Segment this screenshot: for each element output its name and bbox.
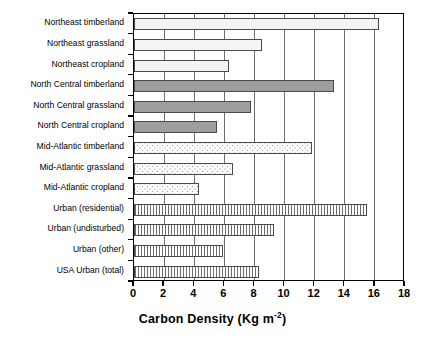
bar (134, 183, 199, 195)
y-axis-tick (128, 280, 133, 281)
gridline (344, 14, 345, 280)
bar (134, 121, 217, 133)
bar (134, 224, 274, 236)
y-axis-tick (128, 33, 133, 34)
category-label: Urban (residential) (0, 204, 124, 213)
x-axis-tick (132, 281, 133, 286)
category-label: Northeast cropland (0, 60, 124, 69)
x-axis-tick (283, 281, 284, 286)
y-axis-tick (128, 54, 133, 55)
x-axis-tick-label: 4 (178, 287, 208, 299)
bar (134, 101, 251, 113)
x-axis-title: Carbon Density (Kg m-2) (0, 310, 425, 326)
x-axis-tick (162, 281, 163, 286)
y-axis-tick (128, 239, 133, 240)
y-axis-tick (128, 12, 133, 13)
bar (134, 18, 379, 30)
bar (134, 80, 334, 92)
x-axis-tick (403, 281, 404, 286)
category-label: Mid-Atlantic timberland (0, 142, 124, 151)
x-axis-tick (193, 281, 194, 286)
x-axis-tick-label: 2 (148, 287, 178, 299)
bar (134, 204, 367, 216)
category-label: Urban (undisturbed) (0, 224, 124, 233)
plot-area (133, 13, 404, 281)
gridline (314, 14, 315, 280)
y-axis-tick (128, 115, 133, 116)
bar (134, 245, 223, 257)
x-axis-tick-label: 0 (118, 287, 148, 299)
bar (134, 142, 312, 154)
x-axis-tick-label: 18 (389, 287, 419, 299)
y-axis-tick (128, 198, 133, 199)
category-axis-labels: Northeast timberlandNortheast grasslandN… (0, 13, 128, 281)
x-axis-tick-label: 12 (299, 287, 329, 299)
x-axis-tick (373, 281, 374, 286)
x-axis-tick-label: 6 (208, 287, 238, 299)
bar (134, 60, 229, 72)
bar (134, 39, 262, 51)
bar-chart: Northeast timberlandNortheast grasslandN… (0, 0, 425, 345)
x-axis-tick-label: 8 (238, 287, 268, 299)
x-axis-title-exponent: -2 (274, 310, 282, 320)
category-label: North Central cropland (0, 121, 124, 130)
category-label: Urban (other) (0, 245, 124, 254)
x-axis-tick-label: 10 (269, 287, 299, 299)
category-label: Mid-Atlantic cropland (0, 183, 124, 192)
x-axis-tick-label: 16 (359, 287, 389, 299)
category-label: Northeast grassland (0, 39, 124, 48)
category-label: USA Urban (total) (0, 266, 124, 275)
x-axis-tick-label: 14 (329, 287, 359, 299)
gridline (374, 14, 375, 280)
category-label: North Central grassland (0, 101, 124, 110)
category-label: North Central timberland (0, 80, 124, 89)
x-axis-tick (253, 281, 254, 286)
x-axis-tick (343, 281, 344, 286)
y-axis-tick (128, 219, 133, 220)
y-axis-tick (128, 157, 133, 158)
y-axis-tick (128, 177, 133, 178)
category-label: Mid-Atlantic grassland (0, 163, 124, 172)
x-axis-tick (313, 281, 314, 286)
y-axis-tick (128, 260, 133, 261)
y-axis-tick (128, 74, 133, 75)
y-axis-tick (128, 95, 133, 96)
category-label: Northeast timberland (0, 18, 124, 27)
bar (134, 163, 233, 175)
y-axis-tick (128, 136, 133, 137)
bar (134, 266, 259, 278)
x-axis-tick (223, 281, 224, 286)
